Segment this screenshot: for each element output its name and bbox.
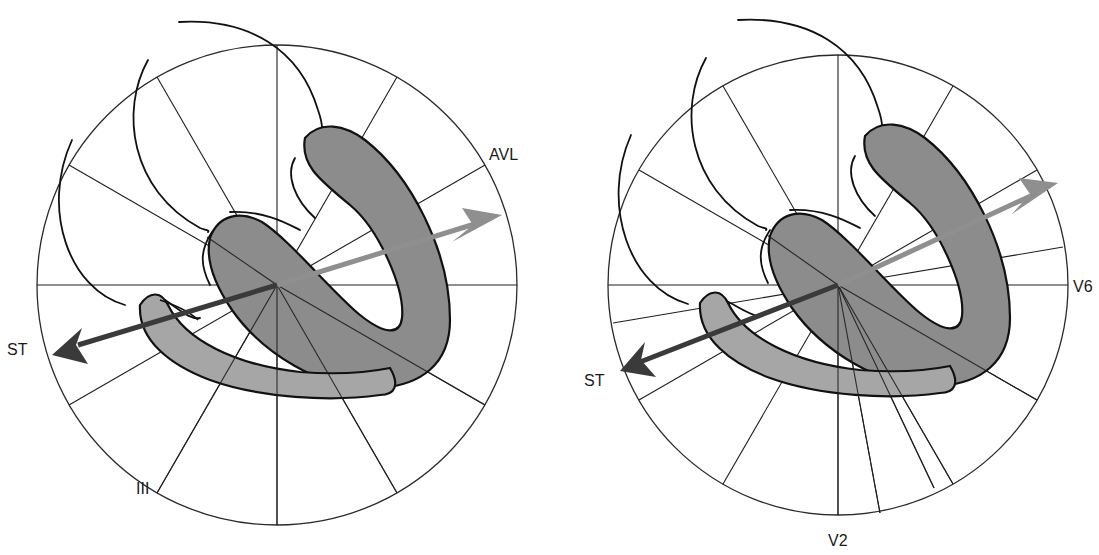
label-v2: V2	[828, 532, 848, 549]
frontal-plane-diagram: AVL ST III	[0, 0, 550, 555]
label-avl: AVL	[489, 146, 518, 163]
frontal-plane-panel: AVL ST III	[0, 0, 550, 555]
horizontal-plane-panel: V6 ST V2	[550, 0, 1099, 555]
left-ventricle-wall	[209, 126, 450, 388]
label-st: ST	[7, 341, 28, 358]
label-lead-iii: III	[136, 480, 149, 497]
label-st: ST	[584, 372, 605, 389]
horizontal-plane-diagram: V6 ST V2	[550, 0, 1099, 555]
label-v6: V6	[1073, 278, 1093, 295]
